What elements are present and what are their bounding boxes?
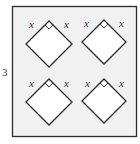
x-label-right: x xyxy=(63,77,69,89)
x-label-left: x xyxy=(28,77,34,89)
x-label-left: x xyxy=(84,77,90,89)
side-length-label: 3 xyxy=(2,66,8,78)
x-label-left: x xyxy=(28,18,34,30)
square-with-cutouts-diagram: 3 x x x x x x x x xyxy=(0,0,140,144)
x-label-right: x xyxy=(118,77,124,89)
x-label-left: x xyxy=(83,17,89,29)
x-label-right: x xyxy=(63,18,69,30)
x-label-right: x xyxy=(118,17,124,29)
